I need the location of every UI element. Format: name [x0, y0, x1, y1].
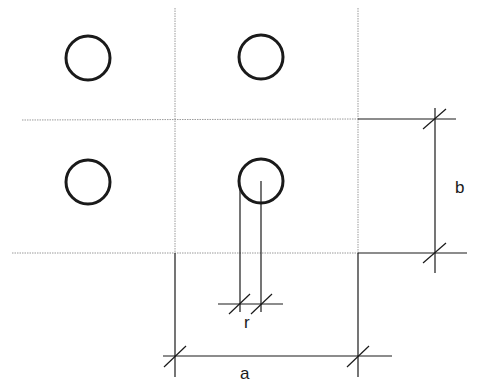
hole-bottom-left: [66, 160, 110, 204]
grid-horizontal-upper: [22, 119, 358, 120]
dimension-lines: [163, 108, 467, 377]
hole-top-right: [239, 35, 283, 79]
label-b: b: [455, 178, 464, 197]
label-a: a: [240, 364, 250, 383]
hole-grid-diagram: b r a: [0, 0, 480, 391]
grid-lines: [12, 8, 358, 253]
diagram-canvas: b r a: [0, 0, 480, 391]
hole-top-left: [66, 36, 110, 80]
label-r: r: [244, 313, 250, 332]
